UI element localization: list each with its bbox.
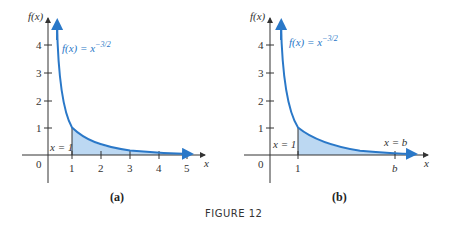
x-tick-label-5: 5 xyxy=(184,162,190,174)
panel-a: f(x) x 0 1 2 3 4 1 2 3 4 5 x = 1 f(x) = … xyxy=(22,10,209,204)
figure-canvas: f(x) x 0 1 2 3 4 1 2 3 4 5 x = 1 f(x) = … xyxy=(0,0,450,230)
panel-label-a: (a) xyxy=(110,190,124,204)
x-axis-label: x xyxy=(203,157,209,169)
x-axis-label: x xyxy=(423,157,429,169)
y-tick-label-2: 2 xyxy=(36,95,42,107)
figure-caption: FIGURE 12 xyxy=(205,208,262,219)
line-label-x1: x = 1 xyxy=(272,138,296,150)
y-tick-label-4: 4 xyxy=(36,39,42,51)
y-tick-label-4: 4 xyxy=(258,39,264,51)
y-axis-label: f(x) xyxy=(250,10,266,23)
x-tick-label-4: 4 xyxy=(156,162,162,174)
y-axis-label: f(x) xyxy=(28,10,44,23)
panel-label-b: (b) xyxy=(332,190,347,204)
x-tick-label-1: 1 xyxy=(69,162,75,174)
y-tick-label-3: 3 xyxy=(258,67,264,79)
y-tick-label-1: 1 xyxy=(258,122,264,134)
x-tick-label-1: 1 xyxy=(295,162,301,174)
y-tick-label-2: 2 xyxy=(258,95,264,107)
origin-label: 0 xyxy=(258,158,264,170)
line-label-x1: x = 1 xyxy=(49,141,73,153)
function-label: f(x) = x−3/2 xyxy=(289,34,338,49)
y-tick-label-3: 3 xyxy=(36,67,42,79)
x-tick-label-3: 3 xyxy=(127,162,133,174)
line-label-xb: x = b xyxy=(383,136,408,148)
function-label: f(x) = x−3/2 xyxy=(62,40,111,55)
shaded-area xyxy=(298,128,395,156)
x-tick-label-2: 2 xyxy=(98,162,104,174)
x-tick-label-b: b xyxy=(392,162,398,174)
origin-label: 0 xyxy=(36,158,42,170)
panel-b: f(x) x 0 1 2 3 4 1 b x = 1 x = b f(x) = … xyxy=(244,10,429,204)
y-tick-label-1: 1 xyxy=(36,122,42,134)
